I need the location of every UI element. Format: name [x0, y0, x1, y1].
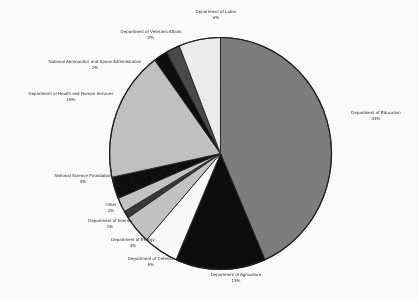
pie-chart-canvas	[0, 0, 418, 301]
pie-label-percent: 3%	[33, 179, 133, 185]
pie-label-national-science-foundation: National Science Foundation 3%	[33, 173, 133, 185]
pie-label-department-of-defense: Department of Defense 5%	[104, 256, 198, 268]
pie-label-text: Other	[105, 202, 116, 207]
pie-label-text: National Aeronautics and Space Administr…	[49, 59, 142, 64]
pie-label-text: Department of Defense	[128, 256, 174, 261]
pie-label-text: Department of Agriculture	[211, 272, 262, 277]
pie-label-department-of-education: Department of Education 43%	[338, 110, 414, 122]
pie-label-department-of-energy: Department of Energy 4%	[88, 237, 178, 249]
pie-label-text: Department of Labor	[196, 9, 237, 14]
pie-label-department-of-agriculture: Department of Agriculture 13%	[186, 272, 286, 284]
pie-label-percent: 6%	[166, 15, 266, 21]
pie-label-department-of-veterans-affairs: Department of Veterans Affairs 2%	[96, 29, 206, 41]
pie-label-department-of-health-and-human-services: Department of Health and Human Services …	[10, 91, 132, 103]
pie-label-percent: 18%	[10, 97, 132, 103]
pie-label-text: Department of Veterans Affairs	[121, 29, 182, 34]
pie-slices-group	[109, 38, 331, 270]
pie-label-department-of-labor: Department of Labor 6%	[166, 9, 266, 21]
pie-label-text: Department of Energy	[111, 237, 155, 242]
pie-label-percent: 5%	[104, 262, 198, 268]
pie-label-department-of-interior: Department of Interior 1%	[62, 218, 158, 230]
pie-label-other: Other 2%	[93, 202, 129, 214]
pie-label-percent: 43%	[338, 116, 414, 122]
pie-label-percent: 4%	[88, 243, 178, 249]
pie-label-text: Department of Education	[351, 110, 400, 115]
pie-label-text: Department of Health and Human Services	[28, 91, 113, 96]
pie-chart-figure: Department of Labor 6% Department of Vet…	[0, 0, 418, 301]
pie-label-percent: 2%	[93, 208, 129, 214]
pie-label-nasa: National Aeronautics and Space Administr…	[22, 59, 168, 71]
pie-label-percent: 1%	[62, 224, 158, 230]
pie-label-percent: 13%	[186, 278, 286, 284]
pie-label-percent: 2%	[22, 65, 168, 71]
pie-label-percent: 2%	[96, 35, 206, 41]
pie-label-text: Department of Interior	[88, 218, 132, 223]
pie-label-text: National Science Foundation	[54, 173, 111, 178]
